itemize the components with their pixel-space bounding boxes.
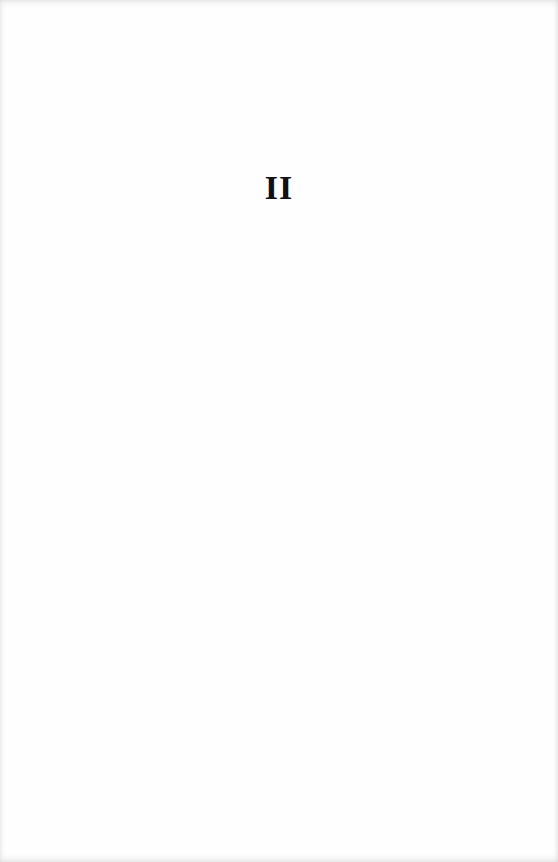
book-page: II	[0, 0, 558, 862]
chapter-number: II	[0, 168, 558, 208]
